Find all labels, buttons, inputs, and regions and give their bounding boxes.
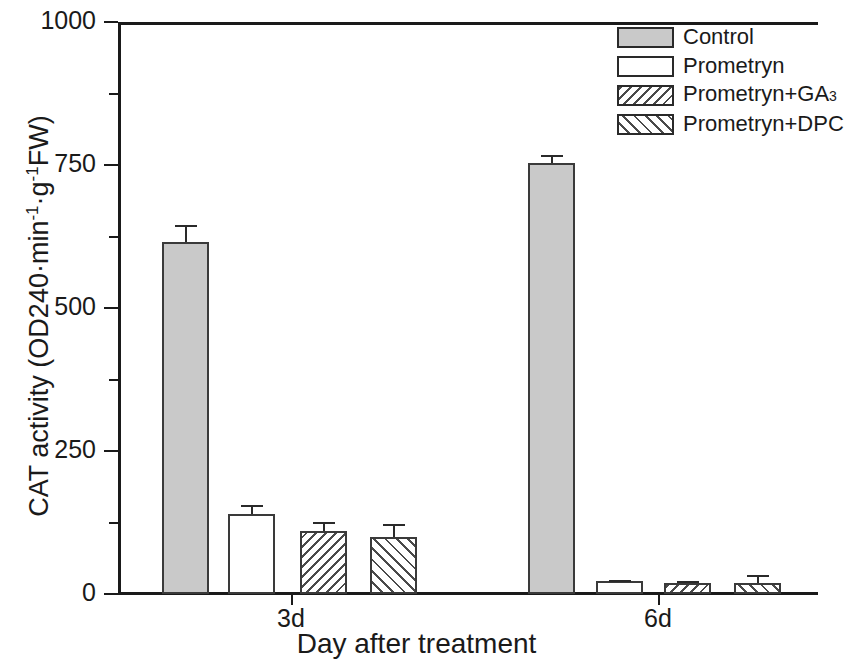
bar: [162, 242, 209, 594]
y-axis-title-prefix: CAT activity (OD240·min: [24, 221, 54, 517]
chart-legend: ControlPrometrynPrometryn+GA3Prometryn+D…: [617, 24, 833, 140]
bar: [228, 514, 275, 594]
y-tick-major: [104, 450, 118, 452]
bar: [528, 163, 575, 594]
legend-item: Prometryn+DPC: [617, 111, 833, 137]
error-bar-cap: [541, 155, 563, 157]
y-tick-major: [104, 21, 118, 23]
y-tick-label: 750: [0, 151, 96, 176]
y-axis-title-sup1: -1: [23, 205, 42, 220]
bar: [664, 583, 711, 594]
legend-label: Prometryn+DPC: [683, 113, 844, 135]
y-tick-label: 500: [0, 294, 96, 319]
y-tick-major: [104, 164, 118, 166]
y-tick-major: [104, 307, 118, 309]
y-tick-minor: [109, 93, 118, 95]
legend-item: Prometryn: [617, 53, 833, 79]
y-axis-title-mid: ·g: [24, 181, 54, 205]
legend-swatch: [617, 56, 674, 77]
y-tick-label: 250: [0, 437, 96, 462]
error-bar-cap: [747, 575, 769, 577]
legend-label: Control: [683, 26, 754, 48]
error-bar-cap: [241, 505, 263, 507]
legend-label-subscript: 3: [829, 88, 837, 104]
error-bar-cap: [677, 581, 699, 583]
legend-swatch: [617, 114, 674, 135]
legend-label: Prometryn: [683, 55, 784, 77]
y-tick-label: 1000: [0, 8, 96, 33]
bar: [300, 531, 347, 594]
error-bar-stem: [185, 225, 187, 242]
error-bar-cap: [609, 580, 631, 582]
y-tick-minor: [109, 236, 118, 238]
y-tick-major: [104, 593, 118, 595]
bar: [370, 537, 417, 594]
bar: [734, 583, 781, 594]
error-bar-cap: [383, 524, 405, 526]
legend-swatch: [617, 85, 674, 106]
y-tick-label: 0: [0, 580, 96, 605]
y-tick-minor: [109, 379, 118, 381]
x-axis-title: Day after treatment: [0, 628, 833, 659]
error-bar-cap: [313, 522, 335, 524]
legend-swatch: [617, 27, 674, 48]
x-axis-line: [118, 592, 818, 595]
legend-item: Prometryn+GA3: [617, 82, 833, 108]
error-bar-cap: [175, 225, 197, 227]
y-tick-minor: [109, 522, 118, 524]
bar: [596, 581, 643, 594]
legend-label: Prometryn+GA3: [683, 83, 837, 107]
legend-item: Control: [617, 24, 833, 50]
